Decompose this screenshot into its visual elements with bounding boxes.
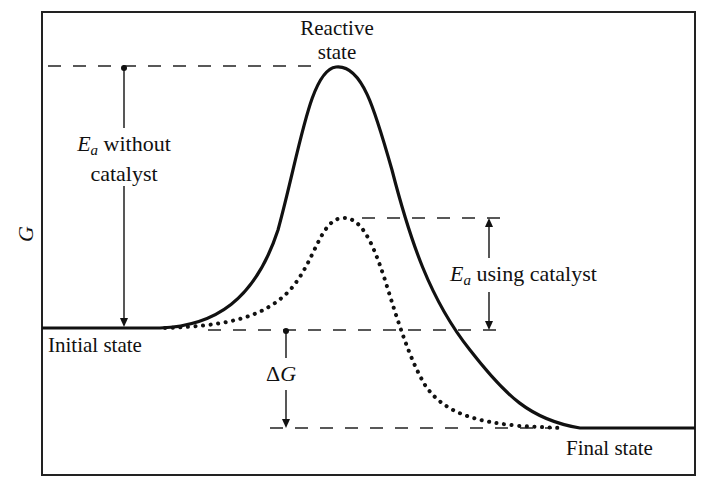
delta-symbol: Δ [266, 361, 280, 386]
ea-using-catalyst-label: Ea using catalyst [448, 262, 599, 288]
delta-g-label: ΔG [264, 362, 298, 386]
uncatalyzed-curve [42, 67, 695, 428]
ea-without-catalyst-label: Ea without catalyst [54, 130, 194, 188]
reactive-state-line1: Reactive [282, 16, 392, 40]
ea-subscript: a [463, 272, 471, 288]
ea-without-text: without [98, 131, 171, 156]
plot-frame [42, 12, 695, 475]
ea-using-text: using catalyst [471, 261, 597, 286]
ea-without-catalyst-arrow [120, 65, 128, 327]
ea-symbol: E [450, 261, 463, 286]
y-axis-label: G [14, 226, 38, 242]
initial-state-label: Initial state [48, 333, 142, 357]
diagram-canvas [0, 0, 712, 496]
energy-diagram: G Reactive state Ea without catalyst Ea … [0, 0, 712, 496]
ea-subscript: a [91, 142, 99, 158]
reactive-state-label: Reactive state [282, 16, 392, 64]
ea-symbol: E [77, 131, 90, 156]
g-symbol: G [280, 361, 296, 386]
final-state-label: Final state [566, 436, 653, 460]
catalyzed-curve [165, 218, 560, 428]
reactive-state-line2: state [282, 40, 392, 64]
ea-without-line2: catalyst [54, 160, 194, 188]
